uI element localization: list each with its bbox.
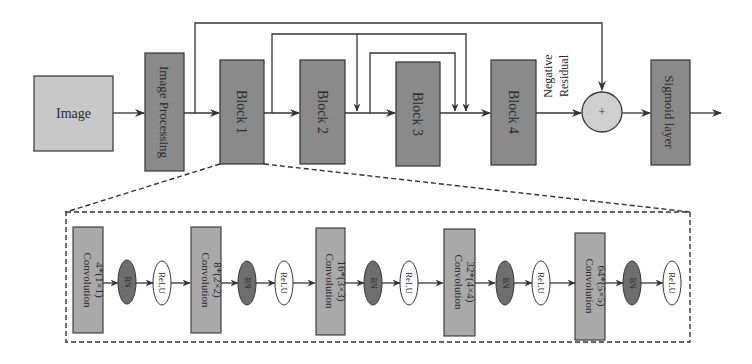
sigmoid-layer-box: Sigmoid layer [651,60,690,165]
block-1-label: Block 1 [234,90,249,134]
block-2-box: Block 2 [300,60,345,164]
bn-1-label: BN [123,276,132,287]
bn-5-label: BN [628,277,637,288]
negative-residual-line2: Residual [557,54,571,97]
conv-stage-5: Convolution 64*(5×5) BN ReLU [575,233,681,340]
block-3-label: Block 3 [410,92,425,136]
negative-residual-line1: Negative [541,54,555,97]
plus-icon: + [599,105,606,119]
block-2-label: Block 2 [315,90,330,134]
input-image-label: Image [56,106,91,121]
conv-2-label: Convolution [200,252,212,308]
input-image-box: Image [34,76,113,151]
conv-stage-4: Convolution 32*(4×4) BN ReLU [444,229,550,336]
conv-4-param: 32*(4×4) [464,261,477,302]
conv-2-param: 8*(2×2) [211,262,224,298]
image-processing-label: Image Processing [157,66,172,159]
conv-1-param: 4*(1×1) [93,262,106,298]
block-3-box: Block 3 [396,62,440,166]
conv-1-label: Convolution [82,252,94,308]
sum-node: + [582,92,622,132]
relu-5-label: ReLU [667,272,677,294]
block-1-box: Block 1 [220,60,264,164]
network-diagram: Image Image Processing Block 1 Block 2 B… [0,0,752,364]
relu-2-label: ReLU [279,272,289,294]
conv-4-label: Convolution [453,254,465,310]
negative-residual-label: Negative Residual [541,54,571,97]
sigmoid-layer-label: Sigmoid layer [662,75,677,149]
relu-4-label: ReLU [536,272,546,294]
block-4-label: Block 4 [506,90,521,134]
relu-1-label: ReLU [157,272,167,294]
image-processing-box: Image Processing [145,53,184,171]
bn-4-label: BN [501,277,510,288]
conv-3-label: Convolution [324,253,336,309]
relu-3-label: ReLU [404,272,414,294]
conv-stage-1: Convolution 4*(1×1) BN ReLU [73,227,171,333]
conv-stage-2: Convolution 8*(2×2) BN ReLU [191,227,293,333]
conv-3-param: 16*(3×3) [335,260,348,301]
bn-2-label: BN [243,277,252,288]
conv-5-param: 64*(5×5) [595,265,608,306]
bn-3-label: BN [369,277,378,288]
block-4-box: Block 4 [491,60,536,165]
conv-5-label: Convolution [584,258,596,314]
conv-stage-3: Convolution 16*(3×3) BN ReLU [316,228,418,335]
